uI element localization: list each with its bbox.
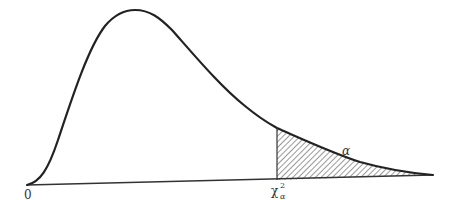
chi-symbol: χ bbox=[271, 184, 279, 198]
tail-area-label: α bbox=[342, 144, 350, 158]
chi-superscript: 2 bbox=[280, 181, 285, 190]
origin-label: 0 bbox=[24, 188, 32, 202]
critical-value-label: χ 2 α bbox=[271, 181, 286, 201]
density-curve bbox=[27, 10, 433, 185]
chi-square-diagram: 0 χ 2 α α bbox=[0, 0, 456, 211]
x-axis bbox=[27, 175, 433, 185]
chi-subscript: α bbox=[280, 192, 286, 201]
